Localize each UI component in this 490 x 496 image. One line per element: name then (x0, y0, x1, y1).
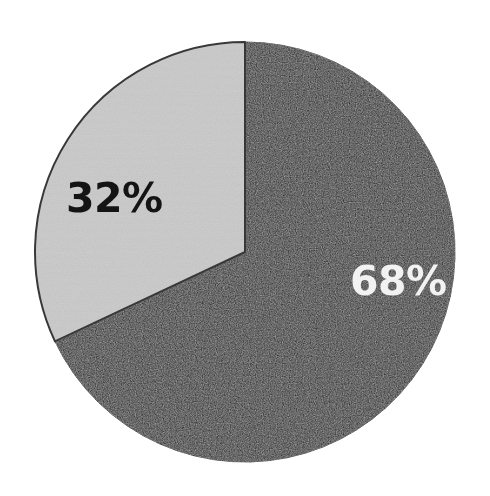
pie-chart-figure: 32% 68% (0, 0, 490, 496)
pie-label-gray-slice: 32% (66, 178, 163, 219)
pie-chart-svg (0, 0, 490, 496)
pie-label-dark-slice: 68% (350, 261, 447, 302)
